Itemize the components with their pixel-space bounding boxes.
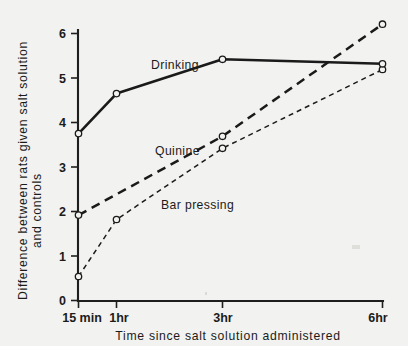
series-markers-quinine [75,21,385,218]
x-tick-label: 1hr [109,311,129,325]
y-axis-tick-labels: 0 1 2 3 4 5 6 [59,27,66,308]
y-tick-label: 1 [59,250,66,264]
x-tick-label: 15 min [62,311,102,325]
series-markers-bar-pressing [75,66,385,279]
y-axis-title-line2: and controls [30,173,44,248]
series-line-quinine [79,24,383,215]
y-tick-label: 3 [59,161,66,175]
series-line-drinking [79,59,383,133]
line-chart: 0 1 2 3 4 5 6 15 min 1hr 3hr 6hr Time si… [0,0,408,346]
series-markers-drinking [75,56,385,137]
y-axis-title-line1: Difference between rats given salt solut… [16,41,30,300]
x-axis-tick-labels: 15 min 1hr 3hr 6hr [62,311,388,325]
x-tick-label: 6hr [368,311,388,325]
series-annotation-drinking: Drinking [151,58,199,72]
y-tick-label: 6 [59,27,66,41]
y-tick-label: 2 [59,205,66,219]
series-line-bar-pressing [79,70,383,277]
y-tick-label: 5 [59,72,66,86]
x-tick-label: 3hr [213,311,233,325]
scan-artifacts [205,245,360,295]
series-annotation-bar-pressing: Bar pressing [161,198,234,212]
series-annotation-quinine: Quinine [155,144,200,158]
y-tick-label: 4 [59,116,66,130]
x-axis-title: Time since salt solution administered [115,329,340,343]
y-tick-label: 0 [59,294,66,308]
figure-page: 0 1 2 3 4 5 6 15 min 1hr 3hr 6hr Time si… [0,0,408,346]
